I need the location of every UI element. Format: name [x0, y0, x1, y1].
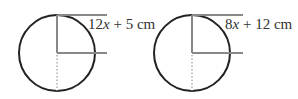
diagram-canvas: 12x + 5 cm 8x + 12 cm [0, 0, 298, 99]
circle-figure-b: 8x + 12 cm [154, 15, 293, 91]
circles-diagram: 12x + 5 cm 8x + 12 cm [0, 0, 298, 99]
circle-b-label: 8x + 12 cm [225, 16, 293, 32]
circle-a-label: 12x + 5 cm [88, 16, 156, 32]
circle-figure-a: 12x + 5 cm [19, 15, 156, 91]
